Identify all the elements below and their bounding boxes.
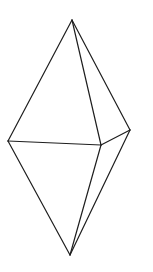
edge-top_apex-right bbox=[72, 20, 130, 130]
edge-group bbox=[8, 20, 130, 255]
diagram-canvas bbox=[0, 0, 153, 272]
edge-top_apex-front bbox=[72, 20, 101, 145]
bipyramid-drawing bbox=[0, 0, 153, 272]
edge-left-bottom_apex bbox=[8, 141, 70, 255]
edge-front-right bbox=[101, 130, 130, 145]
edge-top_apex-left bbox=[8, 20, 72, 141]
edge-left-front bbox=[8, 141, 101, 145]
